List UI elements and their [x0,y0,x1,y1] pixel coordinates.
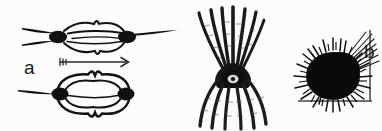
lower-median-septum [68,95,121,98]
upper-form-outline [64,21,124,54]
spine-3 [313,46,319,56]
halo-2 [319,47,322,54]
panel-label-a: a [24,58,35,77]
upper-top-contour [64,21,124,31]
panel-b-drawing [178,0,288,131]
panel-c: c [288,0,382,131]
spine-22 [340,39,341,51]
lower-inner-top [65,80,121,90]
figure-root: a [0,0,382,131]
central-body-ring [222,70,244,88]
body-aperture-core [231,77,235,81]
spine-14 [358,85,370,88]
spine-15 [359,76,372,77]
spine-7 [295,85,308,88]
upper-bottom-contour [64,43,124,54]
lower-inflated-form [18,88,135,101]
lower-arm-3 [225,87,229,129]
spine-9 [313,97,319,107]
hatch-u2 [208,35,213,36]
left-terminal-node [49,31,67,43]
spine-12 [347,97,353,107]
hatch-u1 [205,25,210,26]
transformation-arrow [60,58,129,67]
lower-arm-4 [237,87,241,129]
lower-left-axial-spine [18,90,56,94]
halo-12 [356,89,364,93]
lower-arm-hatching [202,97,264,116]
upper-inner-septum-3 [72,37,120,38]
halo-1 [328,44,329,51]
spine-2 [323,40,326,52]
spine-6 [294,76,307,77]
spine-5 [297,64,309,69]
left-axial-spine-lower [22,41,54,46]
halo-6 [299,81,307,82]
lower-arm-5 [243,84,254,128]
right-axial-spine [131,30,178,36]
lower-inner-bottom [65,98,121,108]
upper-inner-septum-1 [68,31,122,34]
lower-arm-2 [212,84,223,128]
spine-13 [354,92,364,99]
panel-a: a [0,0,190,131]
panel-b: b [178,0,288,131]
halo-10 [343,99,345,106]
body-mass-upper-lobe [320,52,360,88]
upper-inner-septum-2 [67,42,122,44]
halo-9 [322,99,323,106]
spine-8 [301,92,312,99]
left-axial-spine [22,28,54,33]
panel-c-drawing [288,0,382,131]
spine-18 [344,41,346,53]
